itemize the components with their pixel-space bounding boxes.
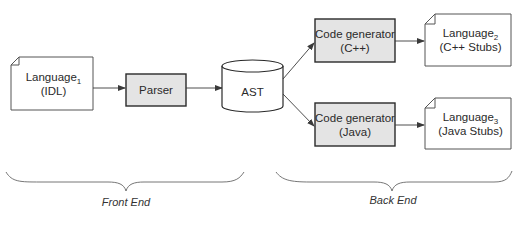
input-document-name: Language	[26, 71, 77, 83]
output-cpp-detail: (C++ Stubs)	[440, 41, 502, 53]
input-document-subscript: 1	[77, 77, 81, 86]
output-cpp-name: Language	[443, 27, 494, 39]
output-java-label: Language3 (Java Stubs)	[430, 110, 511, 138]
input-document-label: Language1 (IDL)	[14, 70, 93, 98]
back-end-label: Back End	[353, 194, 433, 206]
back-end-brace	[276, 171, 512, 191]
ast-label: AST	[222, 85, 283, 99]
codegen-java-line1: Code generator	[315, 112, 395, 124]
parser-label: Parser	[126, 83, 186, 97]
output-cpp-label: Language2 (C++ Stubs)	[430, 26, 511, 54]
front-end-label: Front End	[86, 196, 166, 208]
codegen-java-line2: (Java)	[339, 126, 371, 138]
codegen-cpp-label: Code generator (C++)	[315, 27, 395, 55]
output-java-detail: (Java Stubs)	[438, 125, 503, 137]
codegen-cpp-line2: (C++)	[340, 42, 369, 54]
codegen-cpp-line1: Code generator	[315, 28, 395, 40]
edge-ast-to-codegen-java	[283, 94, 314, 126]
input-document-detail: (IDL)	[41, 85, 67, 97]
edge-ast-to-codegen-cpp	[283, 43, 314, 79]
front-end-brace	[6, 172, 244, 191]
output-java-name: Language	[443, 111, 494, 123]
codegen-java-label: Code generator (Java)	[315, 111, 395, 139]
